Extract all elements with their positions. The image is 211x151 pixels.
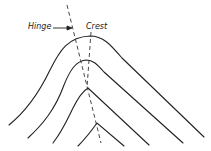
crest-label: Crest (86, 22, 107, 32)
hinge-arrowhead-icon (67, 26, 72, 30)
fold-layer-3 (53, 88, 149, 145)
hinge-label: Hinge (28, 22, 51, 32)
fold-layer-1 (9, 36, 204, 137)
